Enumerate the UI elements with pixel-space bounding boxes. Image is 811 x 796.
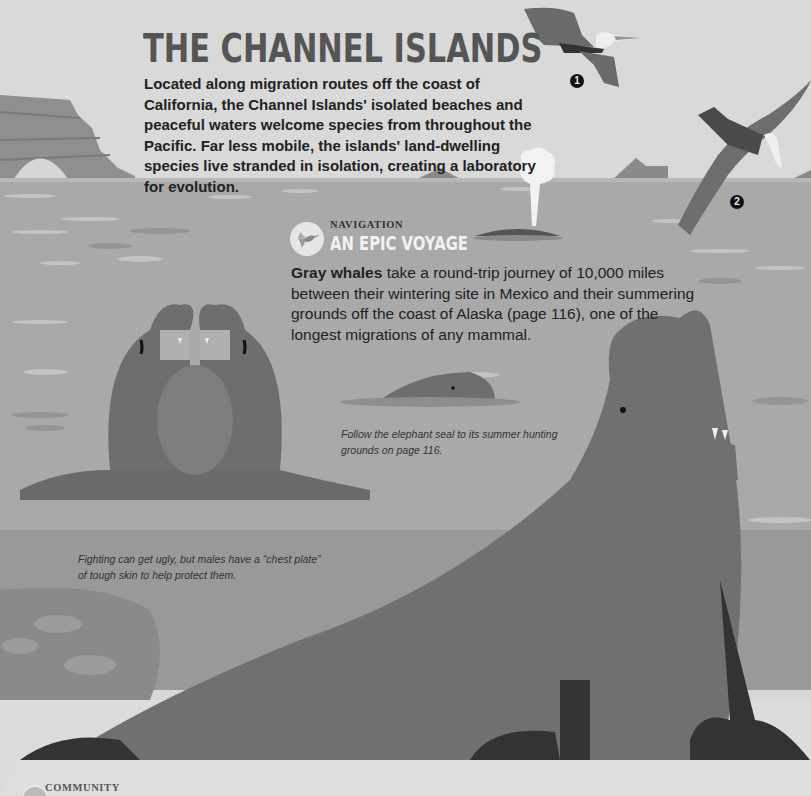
intro-paragraph: Located along migration routes off the c… <box>144 74 544 197</box>
caption-elephant-seal: Follow the elephant seal to its summer h… <box>341 426 571 458</box>
callout-number-2: 2 <box>730 195 744 209</box>
section-body-epic-voyage: Gray whales take a round-trip journey of… <box>291 263 701 345</box>
section-title-epic-voyage: AN EPIC VOYAGE <box>330 232 468 254</box>
section-kicker-navigation: NAVIGATION <box>330 219 403 230</box>
hummingbird-icon <box>290 222 324 256</box>
distant-island <box>612 158 668 180</box>
albatross-bird-2 <box>678 80 811 235</box>
page-title: THE CHANNEL ISLANDS <box>143 26 542 71</box>
gray-whale <box>340 372 520 407</box>
sea-arch-rock-icon <box>0 95 135 182</box>
section-kicker-community: COMMUNITY <box>45 782 120 793</box>
book-page: THE CHANNEL ISLANDS Located along migrat… <box>0 0 811 796</box>
caption-fighting: Fighting can get ugly, but males have a … <box>78 551 328 583</box>
callout-number-1: 1 <box>570 74 584 88</box>
body-bold-lead: Gray whales <box>291 264 382 281</box>
